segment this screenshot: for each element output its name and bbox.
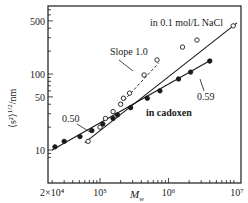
y-tick-label: 50	[35, 92, 45, 103]
data-point-cadoxen	[128, 106, 132, 110]
axis-labels: ⟨s²⟩1/2/nm Mw	[6, 89, 144, 203]
data-point-cadoxen	[62, 139, 66, 143]
data-point-nacl	[118, 102, 122, 106]
data-point-cadoxen	[101, 122, 105, 126]
data-point-nacl	[103, 116, 107, 120]
data-point-cadoxen	[208, 59, 212, 63]
axis-ticks: 2×10⁴10⁵10⁶10⁷1050100500	[30, 10, 244, 198]
annotation-cadoxen: in cadoxen	[146, 107, 192, 118]
data-point-nacl	[155, 58, 159, 62]
annotation-slope: Slope 1.0	[110, 46, 148, 57]
slope-reference-line	[121, 63, 159, 104]
fit-lines	[52, 23, 237, 150]
annotation-nacl: in 0.1 mol/L NaCl	[150, 17, 223, 28]
data-point-nacl	[231, 24, 235, 28]
arrow-slope	[119, 60, 133, 71]
data-point-nacl	[195, 38, 199, 42]
data-points	[53, 24, 236, 149]
fit-line	[85, 23, 237, 143]
y-tick-label: 500	[30, 16, 45, 27]
arrow-050	[77, 124, 90, 132]
data-point-nacl	[142, 73, 146, 77]
data-point-cadoxen	[53, 145, 57, 149]
data-point-nacl	[127, 91, 131, 95]
data-point-cadoxen	[145, 96, 149, 100]
data-point-nacl	[180, 45, 184, 49]
x-tick-label: 2×10⁴	[40, 187, 65, 198]
data-point-nacl	[111, 109, 115, 113]
data-point-cadoxen	[158, 89, 162, 93]
x-tick-label: 10⁶	[162, 187, 176, 198]
data-point-cadoxen	[115, 113, 119, 117]
x-axis-label: Mw	[129, 188, 144, 203]
x-tick-label: 10⁵	[93, 187, 107, 198]
data-point-cadoxen	[111, 116, 115, 120]
data-point-nacl	[86, 139, 90, 143]
data-point-cadoxen	[90, 128, 94, 132]
data-point-nacl	[121, 96, 125, 100]
data-point-cadoxen	[78, 134, 82, 138]
y-axis-label: ⟨s²⟩1/2/nm	[6, 89, 18, 128]
arrow-059	[200, 79, 204, 91]
fit-line	[52, 60, 212, 150]
x-tick-label: 10⁷	[230, 187, 244, 198]
y-tick-label: 100	[30, 69, 45, 80]
annotation-exponent-059: 0.59	[197, 91, 215, 102]
annotation-exponent-050: 0.50	[62, 113, 80, 124]
data-point-cadoxen	[188, 70, 192, 74]
chart: 2×10⁴10⁵10⁶10⁷1050100500 in 0.1 mol/L Na…	[0, 0, 248, 203]
y-tick-label: 10	[35, 145, 45, 156]
data-point-cadoxen	[176, 77, 180, 81]
